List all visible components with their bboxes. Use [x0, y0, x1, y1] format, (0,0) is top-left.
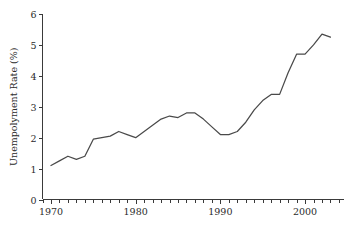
y-tick-label: 4	[30, 71, 36, 82]
x-tick-label: 2000	[293, 206, 317, 217]
y-tick-label: 2	[30, 133, 36, 144]
y-tick-label-group: 0123456	[30, 9, 36, 206]
unemployment-rate-line	[51, 34, 330, 165]
x-tick-label: 1970	[39, 206, 63, 217]
y-tick-label: 5	[30, 40, 36, 51]
y-tick-label: 3	[30, 102, 36, 113]
x-tick-label: 1980	[124, 206, 148, 217]
line-chart-plot: 0123456 1970198019902000 Unempolyment Ra…	[0, 0, 352, 226]
x-tick-group	[44, 200, 340, 205]
y-tick-label: 0	[30, 195, 36, 206]
y-tick-label: 1	[30, 164, 36, 175]
axis-group	[43, 14, 345, 200]
y-tick-label: 6	[30, 9, 36, 20]
y-axis-title: Unempolyment Rate (%)	[8, 48, 19, 166]
x-tick-label: 1990	[208, 206, 232, 217]
chart-figure: 0123456 1970198019902000 Unempolyment Ra…	[0, 0, 352, 226]
x-tick-label-group: 1970198019902000	[39, 206, 317, 217]
y-tick-group	[39, 15, 43, 201]
